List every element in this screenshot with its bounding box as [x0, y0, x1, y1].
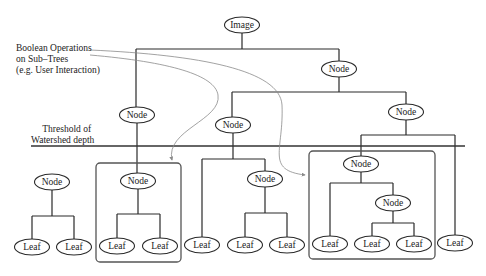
- node-label: Node: [383, 198, 404, 208]
- leaf-node: Leaf: [313, 236, 348, 252]
- tree-node: Node: [120, 107, 155, 123]
- tree-node: Node: [121, 173, 156, 189]
- leaf-node: Leaf: [228, 237, 263, 253]
- node-label: Node: [351, 159, 372, 169]
- node-label: Node: [329, 64, 350, 74]
- node-label: Leaf: [446, 238, 464, 248]
- boolean-ops-annotation: Boolean Operations on Sub–Trees (e.g. Us…: [16, 43, 100, 76]
- tree-node: Node: [389, 104, 424, 120]
- boolean-op-arrow-left: [90, 55, 218, 160]
- node-label: Leaf: [278, 240, 296, 250]
- node-label: Node: [128, 176, 149, 186]
- threshold-line-1: Threshold of: [31, 124, 94, 135]
- node-label: Leaf: [363, 239, 381, 249]
- tree-node: Node: [322, 61, 357, 77]
- threshold-annotation: Threshold of Watershed depth: [31, 124, 94, 146]
- leaf-node: Leaf: [143, 238, 178, 254]
- node-label: Node: [127, 110, 148, 120]
- node-label: Node: [42, 177, 63, 187]
- leaf-node: Leaf: [355, 236, 390, 252]
- leaf-node: Leaf: [438, 235, 473, 251]
- tree-node: Node: [376, 195, 411, 211]
- image-root-node: Image: [225, 17, 260, 33]
- tree-node: Node: [344, 156, 379, 172]
- boolean-ops-line-1: Boolean Operations: [16, 43, 100, 54]
- leaf-node: Leaf: [15, 239, 50, 255]
- node-label: Node: [255, 174, 276, 184]
- node-label: Leaf: [108, 241, 126, 251]
- node-label: Leaf: [236, 240, 254, 250]
- tree-node: Node: [216, 117, 251, 133]
- leaf-node: Leaf: [57, 239, 92, 255]
- leaf-node: Leaf: [100, 238, 135, 254]
- node-label: Image: [230, 20, 254, 30]
- node-label: Leaf: [321, 239, 339, 249]
- node-label: Leaf: [193, 240, 211, 250]
- boolean-ops-line-3: (e.g. User Interaction): [16, 65, 100, 76]
- node-label: Leaf: [23, 242, 41, 252]
- node-label: Node: [396, 107, 417, 117]
- tree-node: Node: [35, 174, 70, 190]
- leaf-node: Leaf: [185, 237, 220, 253]
- node-label: Leaf: [65, 242, 83, 252]
- node-label: Leaf: [151, 241, 169, 251]
- threshold-line-2: Watershed depth: [31, 135, 94, 146]
- leaf-node: Leaf: [270, 237, 305, 253]
- node-label: Leaf: [405, 239, 423, 249]
- boolean-ops-line-2: on Sub–Trees: [16, 54, 100, 65]
- node-label: Node: [223, 120, 244, 130]
- leaf-node: Leaf: [397, 236, 432, 252]
- tree-node: Node: [248, 171, 283, 187]
